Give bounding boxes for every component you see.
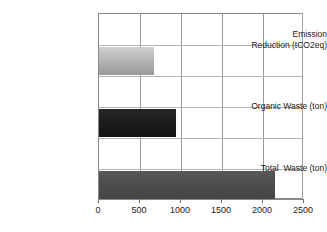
horizontal-gridline — [99, 138, 302, 139]
bar-chart: Emission Reduction (tCO2eq) Organic Wast… — [0, 0, 327, 232]
y-axis-category-label-1: Organic Waste (ton) — [233, 101, 327, 112]
x-axis-tick-label: 1000 — [170, 205, 190, 215]
x-axis-tick — [98, 199, 99, 203]
y-axis-category-label-0: Emission Reduction (tCO2eq) — [233, 29, 327, 50]
x-axis-tick — [303, 199, 304, 203]
x-axis-tick-label: 2500 — [293, 205, 313, 215]
x-axis-tick — [180, 199, 181, 203]
bar-0 — [99, 47, 154, 75]
horizontal-gridline — [99, 76, 302, 77]
x-axis-tick — [139, 199, 140, 203]
x-axis-tick-label: 1500 — [211, 205, 231, 215]
bar-2 — [99, 171, 275, 199]
x-axis-tick-label: 2000 — [252, 205, 272, 215]
x-axis-tick — [221, 199, 222, 203]
x-axis-tick — [262, 199, 263, 203]
bar-1 — [99, 109, 176, 137]
x-axis-tick-label: 500 — [131, 205, 146, 215]
y-axis-category-label-2: Total Waste (ton) — [233, 163, 327, 174]
x-axis-tick-label: 0 — [95, 205, 100, 215]
x-axis-line — [98, 199, 304, 200]
